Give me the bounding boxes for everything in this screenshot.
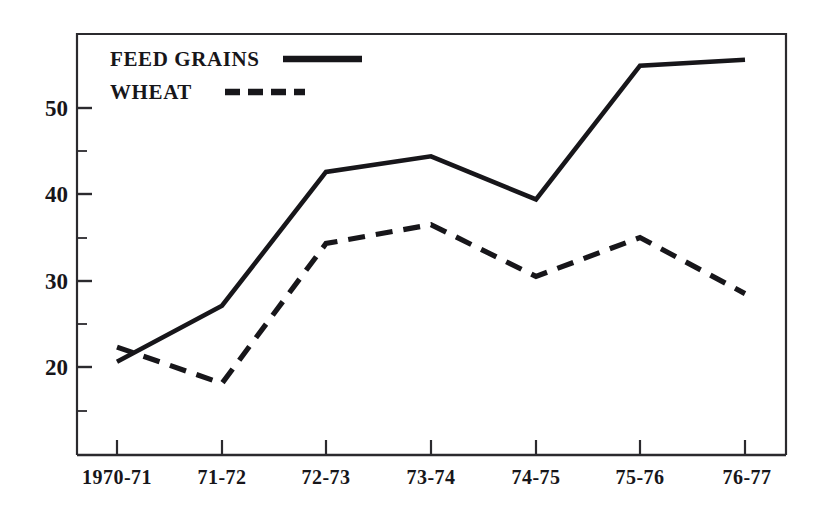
x-tick-label-71-72: 71-72 bbox=[197, 466, 246, 488]
series-line-feed-grains bbox=[117, 60, 745, 362]
series-group bbox=[117, 60, 745, 384]
x-tick-label-74-75: 74-75 bbox=[511, 466, 560, 488]
x-axis-labels: 1970-71 71-72 72-73 73-74 74-75 75-76 76… bbox=[82, 466, 772, 488]
legend-label-feed-grains: FEED GRAINS bbox=[110, 47, 260, 71]
legend: FEED GRAINS WHEAT bbox=[110, 47, 362, 104]
y-tick-label-40: 40 bbox=[45, 182, 68, 207]
y-tick-label-30: 30 bbox=[45, 269, 68, 294]
legend-label-wheat: WHEAT bbox=[110, 80, 192, 104]
x-tick-label-72-73: 72-73 bbox=[301, 466, 350, 488]
x-tick-label-75-76: 75-76 bbox=[615, 466, 664, 488]
y-axis-ticks bbox=[77, 108, 92, 411]
chart-container: 50 40 30 20 1970-71 71-72 72-73 73-74 74… bbox=[0, 0, 829, 514]
x-tick-label-73-74: 73-74 bbox=[406, 466, 455, 488]
y-axis-labels: 50 40 30 20 bbox=[45, 96, 68, 380]
x-tick-label-76-77: 76-77 bbox=[722, 466, 771, 488]
series-line-wheat bbox=[117, 225, 745, 384]
y-tick-label-50: 50 bbox=[45, 96, 68, 121]
y-tick-label-20: 20 bbox=[45, 355, 68, 380]
line-chart: 50 40 30 20 1970-71 71-72 72-73 73-74 74… bbox=[0, 0, 829, 514]
x-tick-label-1970-71: 1970-71 bbox=[82, 466, 152, 488]
x-axis-ticks bbox=[117, 440, 745, 455]
